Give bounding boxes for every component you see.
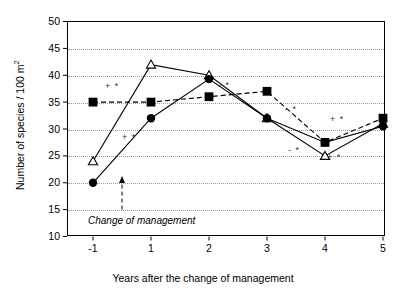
gridline xyxy=(68,130,384,131)
y-tick-label: 45 xyxy=(26,43,60,54)
x-tick-label: 2 xyxy=(189,243,229,254)
y-tick-label: 35 xyxy=(26,97,60,108)
y-axis-title-superscript: 2 xyxy=(12,60,21,64)
change-of-management-label: Change of management xyxy=(88,215,195,226)
y-tick-label: 20 xyxy=(26,177,60,188)
chart-figure: 50 45 40 35 30 25 20 15 10 xyxy=(0,0,406,292)
x-tick-label: 3 xyxy=(247,243,287,254)
x-tick-label: 1 xyxy=(131,243,171,254)
y-tick-label: 30 xyxy=(26,124,60,135)
x-axis-title: Years after the change of management xyxy=(0,272,406,284)
gridline xyxy=(68,103,384,104)
x-tick-label: 4 xyxy=(305,243,345,254)
y-tick-label: 50 xyxy=(26,16,60,27)
y-tick-label: 10 xyxy=(26,231,60,242)
annotation: - * xyxy=(218,81,230,90)
plot-area xyxy=(67,21,385,236)
annotation: + * xyxy=(105,82,119,91)
annotation: - * xyxy=(288,146,300,155)
y-tick-label: 15 xyxy=(26,204,60,215)
gridline xyxy=(68,210,384,211)
y-axis-title-text: Number of species / 100 m xyxy=(14,65,26,190)
annotation: + * xyxy=(327,153,341,162)
y-axis-title: Number of species / 100 m2 xyxy=(12,60,26,190)
gridline xyxy=(68,49,384,50)
annotation: - * xyxy=(285,105,297,114)
gridline xyxy=(68,76,384,77)
x-tick-label: 5 xyxy=(363,243,403,254)
x-tick-label: -1 xyxy=(73,243,113,254)
y-tick-label: 25 xyxy=(26,150,60,161)
annotation: + * xyxy=(122,133,136,142)
y-tick-label: 40 xyxy=(26,70,60,81)
annotation: + * xyxy=(330,115,344,124)
gridline xyxy=(68,183,384,184)
